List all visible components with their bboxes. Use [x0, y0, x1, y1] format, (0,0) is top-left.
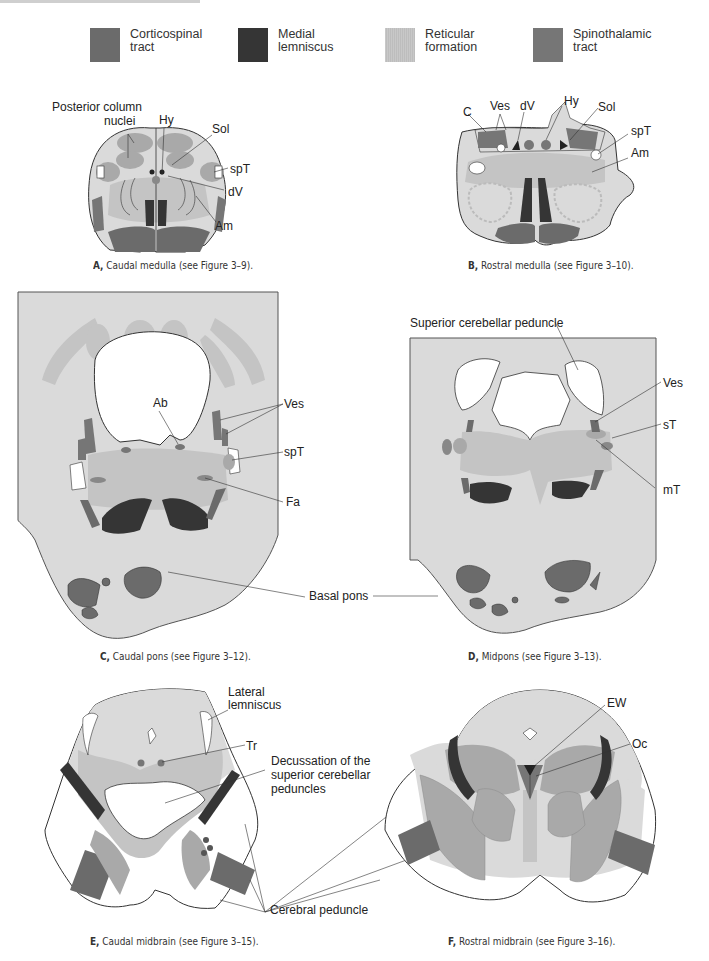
label-posterior-column-nuclei: Posterior column [52, 100, 142, 114]
label-c: C [463, 105, 472, 119]
label-sol: Sol [212, 122, 229, 136]
label-dv: dV [520, 99, 535, 113]
caption-c: C, Caudal pons (see Figure 3–12). [100, 650, 251, 662]
label-tr: Tr [246, 739, 257, 753]
caption-e: E, Caudal midbrain (see Figure 3–15). [90, 935, 259, 947]
label-decussation: Decussation of the [271, 754, 371, 768]
label-ab: Ab [153, 396, 168, 410]
label-posterior-column-nuclei-2: nuclei [104, 114, 135, 128]
label-hy: Hy [564, 94, 579, 108]
caption-a: A, Caudal medulla (see Figure 3–9). [93, 259, 253, 271]
label-ew: EW [607, 696, 627, 710]
caption-f: F, Rostral midbrain (see Figure 3–16). [448, 935, 615, 947]
panel-a-caudal-medulla: Posterior column nuclei Hy Sol spT dV Am [52, 100, 251, 252]
label-am: Am [215, 219, 233, 233]
label-mt: mT [663, 483, 681, 497]
label-basal-pons: Basal pons [309, 589, 368, 603]
panel-c-caudal-pons: Ab Ves spT Fa [18, 292, 305, 638]
caption-d: D, Midpons (see Figure 3–13). [468, 650, 602, 662]
caption-b: B, Rostral medulla (see Figure 3–10). [468, 259, 634, 271]
label-oc: Oc [632, 737, 647, 751]
label-ves: Ves [284, 397, 304, 411]
label-spt: spT [230, 162, 251, 176]
brainstem-sections-diagram: Posterior column nuclei Hy Sol spT dV Am [0, 0, 709, 961]
label-fa: Fa [286, 495, 300, 509]
panel-e-caudal-midbrain: Lateral lemniscus Tr Decussation of the … [45, 685, 420, 912]
label-spt: spT [631, 124, 652, 138]
label-lateral-lemniscus-2: lemniscus [228, 698, 281, 712]
panel-b-rostral-medulla: C Ves dV Hy Sol spT Am [457, 94, 652, 245]
label-spt: spT [284, 445, 305, 459]
label-decussation-2: superior cerebellar [271, 768, 370, 782]
label-lateral-lemniscus: Lateral [228, 685, 265, 699]
label-superior-cerebellar-peduncle: Superior cerebellar peduncle [410, 316, 564, 330]
panel-f-rostral-midbrain: EW Oc [385, 690, 656, 902]
label-decussation-3: peduncles [271, 782, 326, 796]
label-cerebral-peduncle: Cerebral peduncle [270, 903, 368, 917]
label-st: sT [663, 418, 677, 432]
label-ves: Ves [490, 99, 510, 113]
label-sol: Sol [598, 100, 615, 114]
label-hy: Hy [159, 113, 174, 127]
label-dv: dV [228, 185, 243, 199]
label-ves: Ves [663, 376, 683, 390]
panel-d-midpons: Superior cerebellar peduncle Ves sT mT [410, 316, 683, 633]
label-am: Am [631, 146, 649, 160]
